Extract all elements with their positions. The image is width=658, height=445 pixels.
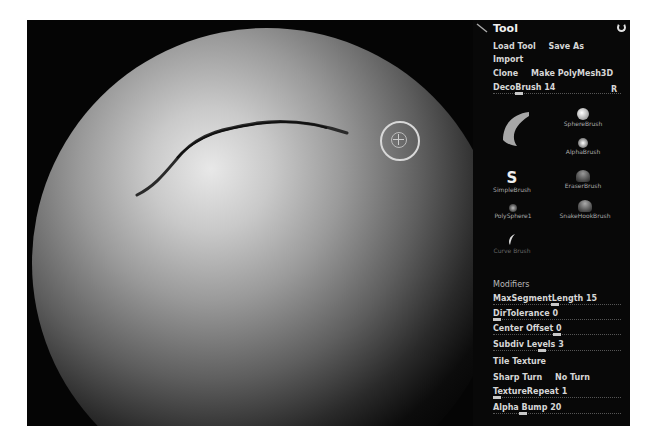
snakehook-icon (578, 200, 592, 212)
max-segment-length-slider[interactable]: MaxSegmentLength 15 (493, 294, 623, 306)
slider-value: 20 (550, 403, 561, 412)
brush-label: AlphaBrush (558, 148, 608, 155)
no-turn-button[interactable]: No Turn (555, 373, 590, 382)
texture-repeat-slider[interactable]: TextureRepeat 1 (493, 387, 623, 399)
curvebrush-icon (505, 232, 519, 246)
dir-tolerance-slider[interactable]: DirTolerance 0 (493, 309, 623, 321)
brush-thumb-decobrush[interactable] (493, 106, 537, 156)
modifiers-heading[interactable]: Modifiers (493, 280, 530, 289)
file-buttons-row: Load Tool Save As (493, 42, 594, 53)
clone-button[interactable]: Clone (493, 69, 518, 78)
crosshair-icon (391, 132, 407, 148)
eraserbrush-icon (576, 170, 590, 182)
subdiv-levels-slider[interactable]: Subdiv Levels 3 (493, 340, 623, 352)
sharp-turn-button[interactable]: Sharp Turn (493, 373, 542, 382)
zbrush-window: Tool Load Tool Save As Import Clone Make… (27, 20, 630, 426)
brush-label: EraserBrush (558, 182, 608, 189)
save-as-button[interactable]: Save As (548, 42, 584, 51)
brush-label: SimpleBrush (487, 186, 537, 193)
slider-label: DirTolerance (493, 309, 550, 318)
brush-label: SphereBrush (558, 120, 608, 127)
brush-thumb-alphabrush[interactable]: AlphaBrush (558, 138, 608, 155)
tool-icon (476, 23, 488, 33)
brush-thumb-eraserbrush[interactable]: EraserBrush (558, 170, 608, 189)
slider-label: Center Offset (493, 324, 553, 333)
slider-label: Alpha Bump (493, 403, 547, 412)
document-canvas[interactable] (27, 20, 473, 426)
current-tool-value: 14 (544, 83, 555, 92)
spherebrush-icon (577, 108, 589, 120)
brush-label: Curve Brush (489, 247, 535, 254)
slider-value: 3 (558, 340, 564, 349)
load-tool-button[interactable]: Load Tool (493, 42, 536, 51)
slider-value: 15 (586, 294, 597, 303)
simplebrush-s-icon: S (487, 170, 537, 186)
reset-icon[interactable] (617, 23, 626, 32)
brush-thumb-spherebrush[interactable]: SphereBrush (558, 108, 608, 127)
make-polymesh-button[interactable]: Make PolyMesh3D (531, 69, 613, 78)
brush-label: PolySphere1 (487, 212, 539, 219)
r-button[interactable]: R (611, 85, 617, 94)
polysphere-icon (509, 204, 517, 212)
brush-thumb-polysphere[interactable]: PolySphere1 (487, 204, 539, 219)
slider-label: MaxSegmentLength (493, 294, 583, 303)
alpha-bump-slider[interactable]: Alpha Bump 20 (493, 403, 623, 415)
brush-cursor (380, 121, 420, 161)
center-offset-slider[interactable]: Center Offset 0 (493, 324, 623, 336)
brush-thumb-curvebrush[interactable]: Curve Brush (489, 232, 535, 254)
brush-label: SnakeHookBrush (553, 212, 617, 219)
decobrush-icon (495, 106, 535, 150)
slider-value: 1 (562, 387, 568, 396)
slider-label: TextureRepeat (493, 387, 559, 396)
current-tool-slider[interactable]: DecoBrush 14 (493, 83, 623, 95)
alphabrush-icon (578, 138, 588, 148)
panel-title: Tool (493, 22, 518, 35)
brush-thumb-snakehookbrush[interactable]: SnakeHookBrush (553, 200, 617, 219)
current-tool-label: DecoBrush (493, 83, 542, 92)
slider-value: 0 (552, 309, 558, 318)
brush-stroke (27, 20, 473, 426)
import-button[interactable]: Import (493, 55, 523, 64)
brush-thumb-simplebrush[interactable]: S SimpleBrush (487, 170, 537, 193)
tool-palette-header[interactable]: Tool (473, 20, 630, 36)
tile-texture-button[interactable]: Tile Texture (493, 357, 546, 366)
tool-palette: Tool Load Tool Save As Import Clone Make… (473, 20, 630, 426)
slider-value: 0 (556, 324, 562, 333)
slider-label: Subdiv Levels (493, 340, 555, 349)
